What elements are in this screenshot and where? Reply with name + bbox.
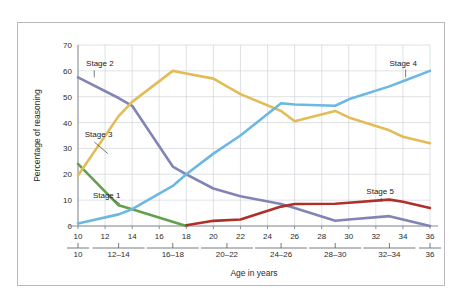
chart-frame: 0102030405060701012141618202224262830323… bbox=[17, 22, 445, 286]
x-tick-label: 18 bbox=[182, 232, 191, 241]
x-tick-label: 12 bbox=[101, 232, 110, 241]
x-group-label: 10 bbox=[74, 250, 83, 259]
x-tick-label: 28 bbox=[317, 232, 326, 241]
x-axis-title: Age in years bbox=[230, 268, 277, 278]
y-tick-label: 10 bbox=[63, 196, 72, 205]
x-group-label: 24–26 bbox=[270, 250, 293, 259]
y-tick-label: 50 bbox=[63, 93, 72, 102]
x-tick-label: 14 bbox=[128, 232, 137, 241]
x-tick-label: 22 bbox=[236, 232, 245, 241]
y-tick-label: 60 bbox=[63, 67, 72, 76]
series-label-stage-1: Stage 1 bbox=[93, 191, 121, 200]
y-tick-label: 30 bbox=[63, 144, 72, 153]
x-group-label: 36 bbox=[426, 250, 435, 259]
x-tick-label: 24 bbox=[263, 232, 272, 241]
series-label-stage-3: Stage 3 bbox=[85, 130, 113, 139]
x-tick-label: 34 bbox=[398, 232, 407, 241]
x-tick-label: 36 bbox=[426, 232, 435, 241]
series-label-stage-5: Stage 5 bbox=[366, 187, 394, 196]
series-label-stage-2: Stage 2 bbox=[86, 59, 114, 68]
x-tick-label: 32 bbox=[371, 232, 380, 241]
x-tick-label: 30 bbox=[344, 232, 353, 241]
line-chart: 0102030405060701012141618202224262830323… bbox=[18, 23, 444, 285]
y-tick-label: 20 bbox=[63, 170, 72, 179]
y-tick-label: 70 bbox=[63, 41, 72, 50]
x-group-label: 16–18 bbox=[162, 250, 185, 259]
x-tick-label: 10 bbox=[74, 232, 83, 241]
x-group-label: 32–34 bbox=[378, 250, 401, 259]
x-group-label: 12–14 bbox=[107, 250, 130, 259]
series-label-stage-4: Stage 4 bbox=[389, 59, 417, 68]
x-tick-label: 16 bbox=[155, 232, 164, 241]
y-tick-label: 40 bbox=[63, 119, 72, 128]
y-axis-title: Percentage of reasoning bbox=[32, 89, 42, 182]
x-group-label: 20–22 bbox=[216, 250, 239, 259]
x-tick-label: 20 bbox=[209, 232, 218, 241]
x-group-label: 28–30 bbox=[324, 250, 347, 259]
x-tick-label: 26 bbox=[290, 232, 299, 241]
